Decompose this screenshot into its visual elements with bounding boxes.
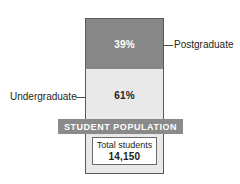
undergraduate-callout-label: Undergraduate [10, 91, 77, 102]
total-students-box: Total students 14,150 [92, 137, 157, 165]
student-population-banner: STUDENT POPULATION [58, 119, 183, 134]
undergraduate-percent-label: 61% [114, 90, 135, 101]
total-students-value: 14,150 [109, 151, 141, 163]
postgraduate-leader-line [164, 45, 173, 46]
student-population-banner-text: STUDENT POPULATION [64, 122, 177, 132]
postgraduate-callout-label: Postgraduate [174, 39, 234, 50]
bar-segment-postgraduate: 39% [86, 19, 163, 69]
postgraduate-percent-label: 39% [114, 39, 135, 50]
undergraduate-leader-line [76, 97, 86, 98]
total-students-label: Total students [97, 140, 153, 151]
